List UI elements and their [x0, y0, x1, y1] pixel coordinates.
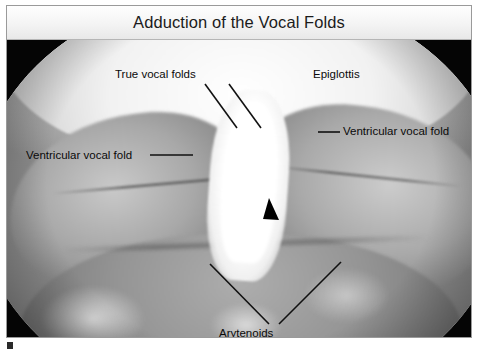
endoscope-vignette	[7, 40, 472, 338]
annotation-label-arytenoids: Arytenoids	[219, 328, 273, 338]
annotation-label-true-vocal-folds: True vocal folds	[115, 69, 196, 81]
figure-plate: Adduction of the Vocal Folds	[6, 5, 472, 338]
figure-title: Adduction of the Vocal Folds	[133, 13, 345, 32]
plate-corner-mark	[7, 342, 13, 349]
annotation-label-ventricular-vocal-fold-right: Ventricular vocal fold	[343, 126, 449, 138]
figure-title-bar: Adduction of the Vocal Folds	[7, 6, 471, 40]
figure-root: Adduction of the Vocal Folds	[0, 0, 478, 351]
annotation-label-ventricular-vocal-fold-left: Ventricular vocal fold	[26, 150, 132, 162]
endoscope-field-of-view	[7, 40, 472, 338]
annotation-label-epiglottis: Epiglottis	[313, 69, 360, 81]
endoscopic-photograph: True vocal foldsEpiglottisVentricular vo…	[7, 40, 472, 338]
